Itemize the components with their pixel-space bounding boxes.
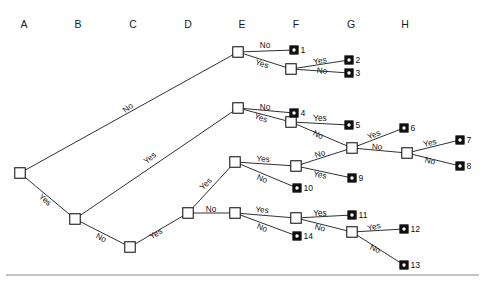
terminal-node[interactable] — [456, 162, 464, 170]
terminal-label-8: 8 — [467, 161, 472, 171]
terminal-node[interactable] — [290, 109, 298, 117]
column-header-h: H — [401, 18, 409, 30]
terminal-label-5: 5 — [356, 120, 361, 130]
edge-label-no: No — [372, 142, 383, 152]
terminal-node[interactable] — [400, 124, 408, 132]
decision-tree-figure: ABCDEFGHNoYesYesNoYesYesNoNoYesYesNoNoYe… — [0, 0, 485, 286]
decision-node[interactable] — [233, 103, 244, 114]
decision-node[interactable] — [233, 47, 244, 58]
decision-node[interactable] — [70, 214, 81, 225]
column-header-f: F — [293, 18, 299, 30]
decision-node[interactable] — [291, 213, 302, 224]
terminal-node[interactable] — [345, 56, 353, 64]
decision-node[interactable] — [230, 157, 241, 168]
edge-label-no: No — [316, 66, 327, 76]
terminal-label-1: 1 — [301, 45, 306, 55]
column-header-c: C — [129, 18, 137, 30]
terminal-label-3: 3 — [356, 68, 361, 78]
terminal-label-2: 2 — [356, 55, 361, 65]
terminal-node[interactable] — [293, 184, 301, 192]
terminal-node[interactable] — [456, 136, 464, 144]
decision-node[interactable] — [183, 208, 194, 219]
column-header-g: G — [347, 18, 355, 30]
decision-node[interactable] — [15, 168, 26, 179]
terminal-label-13: 13 — [411, 260, 421, 270]
terminal-node[interactable] — [293, 232, 301, 240]
edge-label-yes: Yes — [313, 114, 326, 123]
decision-node[interactable] — [347, 143, 358, 154]
column-header-d: D — [184, 18, 192, 30]
terminal-node[interactable] — [348, 211, 356, 219]
tree-canvas — [0, 0, 485, 286]
terminal-node[interactable] — [345, 121, 353, 129]
terminal-label-10: 10 — [304, 183, 314, 193]
terminal-label-7: 7 — [467, 135, 472, 145]
terminal-node[interactable] — [400, 261, 408, 269]
decision-node[interactable] — [286, 64, 297, 75]
column-header-e: E — [238, 18, 245, 30]
decision-node[interactable] — [347, 227, 358, 238]
terminal-node[interactable] — [400, 225, 408, 233]
terminal-label-12: 12 — [411, 224, 421, 234]
column-header-b: B — [74, 18, 81, 30]
edge-label-yes: Yes — [313, 209, 326, 218]
terminal-label-6: 6 — [411, 123, 416, 133]
tree-edge — [238, 50, 294, 52]
edge-label-no: No — [260, 103, 270, 112]
decision-node[interactable] — [230, 208, 241, 219]
terminal-label-14: 14 — [304, 231, 314, 241]
tree-edge — [75, 108, 238, 219]
terminal-node[interactable] — [348, 174, 356, 182]
terminal-node[interactable] — [345, 69, 353, 77]
edge-label-no: No — [206, 205, 216, 214]
terminal-label-11: 11 — [359, 210, 368, 220]
decision-node[interactable] — [402, 148, 413, 159]
edge-label-no: No — [260, 41, 270, 50]
decision-node[interactable] — [291, 161, 302, 172]
edge-label-yes: Yes — [256, 154, 270, 164]
terminal-node[interactable] — [290, 46, 298, 54]
decision-node[interactable] — [125, 242, 136, 253]
edge-label-yes: Yes — [255, 205, 269, 215]
terminal-label-4: 4 — [301, 108, 306, 118]
terminal-label-9: 9 — [359, 173, 364, 183]
column-header-a: A — [20, 18, 27, 30]
decision-node[interactable] — [286, 117, 297, 128]
